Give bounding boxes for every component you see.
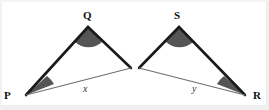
vertex-label-r: R — [253, 89, 262, 101]
side-length-label-x: x — [82, 83, 88, 94]
vertex-label-p: P — [4, 89, 11, 101]
geometry-canvas: P Q x S R y — [0, 0, 269, 110]
vertex-label-s: S — [174, 9, 180, 21]
side-length-label-y: y — [191, 83, 197, 94]
side-sr — [179, 27, 245, 95]
side-pq — [26, 27, 88, 95]
vertex-label-q: Q — [83, 9, 92, 21]
geometry-figure: P Q x S R y — [0, 0, 269, 110]
triangle-pq: P Q x — [4, 9, 131, 101]
side-mid-s — [139, 27, 179, 68]
side-q-mid — [88, 27, 131, 68]
triangle-sr: S R y — [139, 9, 262, 101]
